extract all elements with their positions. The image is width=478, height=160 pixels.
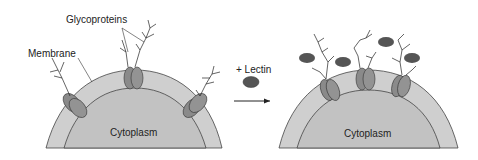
lectin-bound-4: [404, 53, 420, 63]
cytoplasm-right-label: Cytoplasm: [344, 128, 391, 139]
membrane-pointer: [78, 58, 92, 82]
lectin-label: + Lectin: [236, 64, 271, 75]
lectin-bound-3: [378, 37, 394, 47]
right-glycoprotein-2: [354, 30, 376, 90]
glycoproteins-label: Glycoproteins: [66, 14, 127, 25]
lectin-bound-1: [299, 53, 315, 63]
lectin-icon: [243, 77, 259, 88]
membrane-label: Membrane: [28, 48, 76, 59]
cytoplasm-left-label: Cytoplasm: [110, 127, 157, 138]
lectin-bound-2: [335, 57, 351, 67]
lectin-legend: [234, 77, 270, 104]
